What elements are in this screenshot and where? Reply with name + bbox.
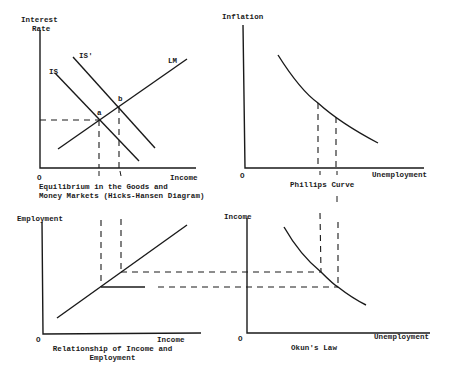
ie-caption-1: Relationship of Income and: [40, 345, 185, 354]
inflation-axis: [243, 25, 424, 168]
okun-dashed-a: [320, 213, 321, 272]
lm-label: LM: [168, 57, 177, 66]
point-a-label: a: [97, 109, 102, 118]
okun-income-label: Income: [224, 213, 252, 222]
phillips-curve: [278, 55, 378, 143]
unemployment-axis-label: Unemployment: [372, 171, 427, 180]
income-axis-label: Income: [170, 174, 198, 183]
ie-caption-2: Employment: [40, 354, 185, 363]
interest-rate-label-2: Rate: [32, 25, 50, 34]
point-b-label: b: [118, 95, 123, 104]
employment-axis: [42, 222, 201, 334]
okun-origin-label: O: [238, 335, 243, 344]
phillips-caption: Phillips Curve: [290, 181, 354, 190]
okun-unemployment-label: Unemployment: [374, 333, 429, 342]
okun-panel: [247, 213, 430, 333]
is-label: IS: [49, 68, 58, 77]
phillips-origin-label: O: [240, 172, 245, 181]
interest-rate-label-1: Interest: [21, 16, 58, 25]
okun-curve: [284, 227, 366, 305]
hicks-hansen-caption-1: Equilibrium in the Goods and: [39, 183, 168, 192]
income-employment-panel: [42, 219, 338, 334]
okun-caption: Okun's Law: [291, 344, 337, 353]
inflation-label: Inflation: [222, 13, 263, 22]
is-shifted-label: IS': [79, 52, 93, 61]
lm-curve: [58, 59, 187, 149]
origin-label: O: [37, 174, 42, 183]
ie-origin-label: O: [36, 336, 41, 345]
employment-label: Employment: [17, 215, 63, 224]
ie-income-axis-label: Income: [157, 336, 185, 345]
hicks-hansen-caption-2: Money Markets (Hicks-Hansen Diagram): [39, 192, 205, 201]
